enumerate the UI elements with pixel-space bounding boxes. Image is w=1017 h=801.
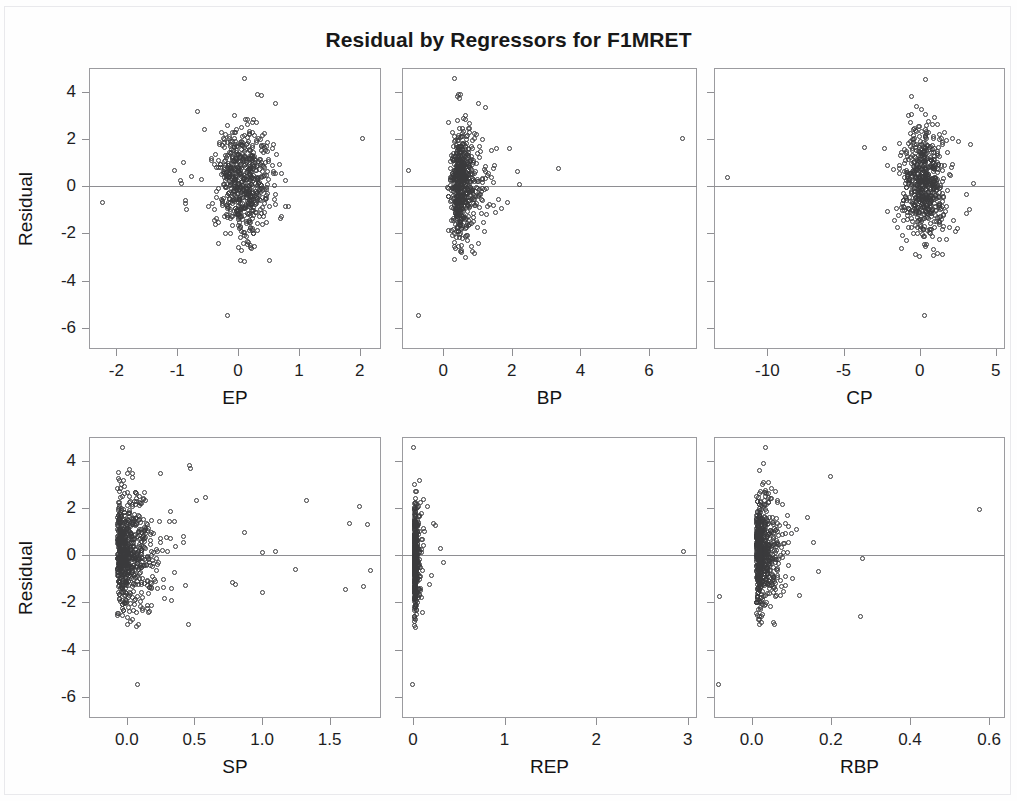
data-point xyxy=(945,188,950,193)
data-point xyxy=(897,171,902,176)
data-point xyxy=(917,124,922,129)
panel-ep: -2-1012420-2-4-6EPResidual xyxy=(89,68,381,349)
data-point xyxy=(944,237,949,242)
data-point-outlier xyxy=(491,203,496,208)
data-point-outlier xyxy=(717,594,722,599)
data-point xyxy=(921,234,926,239)
data-point xyxy=(116,508,121,513)
data-point xyxy=(760,612,765,617)
data-point xyxy=(412,482,417,487)
data-point xyxy=(247,129,252,134)
data-point xyxy=(930,176,935,181)
data-point xyxy=(463,255,468,260)
data-point xyxy=(254,168,259,173)
data-point-outlier xyxy=(120,445,125,450)
data-point xyxy=(505,200,510,205)
x-axis-tick-label: 0.0 xyxy=(740,730,764,750)
data-point xyxy=(270,146,275,151)
data-point xyxy=(265,169,270,174)
data-point xyxy=(212,162,217,167)
y-axis-tick xyxy=(82,139,89,140)
x-axis-tick-label: -10 xyxy=(755,361,780,381)
data-point-outlier xyxy=(135,682,140,687)
x-axis-tick xyxy=(996,349,997,356)
data-point xyxy=(766,562,771,567)
data-point xyxy=(184,207,189,212)
data-point xyxy=(917,134,922,139)
x-axis-tick xyxy=(330,718,331,725)
data-point xyxy=(785,550,790,555)
data-point-outlier xyxy=(425,504,430,509)
data-point xyxy=(167,519,172,524)
y-axis-tick xyxy=(395,461,402,462)
y-axis-tick xyxy=(707,602,714,603)
y-axis-title: Residual xyxy=(15,541,37,615)
y-axis-tick-label: 2 xyxy=(67,498,76,518)
data-point xyxy=(213,222,218,227)
data-point xyxy=(499,206,504,211)
data-point xyxy=(214,189,219,194)
data-point xyxy=(248,220,253,225)
data-point xyxy=(157,519,162,524)
data-point xyxy=(936,162,941,167)
data-point xyxy=(135,550,140,555)
data-point xyxy=(470,187,475,192)
data-point xyxy=(947,225,952,230)
data-point xyxy=(242,259,247,264)
y-axis-tick xyxy=(82,650,89,651)
data-point xyxy=(911,127,916,132)
data-point xyxy=(931,253,936,258)
data-point xyxy=(484,212,489,217)
data-point xyxy=(891,167,896,172)
y-axis-tick xyxy=(82,461,89,462)
data-point xyxy=(259,174,264,179)
data-point-outlier xyxy=(763,445,768,450)
data-point xyxy=(909,173,914,178)
data-point xyxy=(897,163,902,168)
data-point xyxy=(909,112,914,117)
data-point xyxy=(149,518,154,523)
data-point xyxy=(757,468,762,473)
data-point xyxy=(412,551,417,556)
data-point xyxy=(418,586,423,591)
data-point-outlier xyxy=(259,93,264,98)
panel-cp: -10-505CP xyxy=(714,68,1005,349)
y-axis-tick xyxy=(707,92,714,93)
data-point xyxy=(934,208,939,213)
x-axis-tick xyxy=(194,718,195,725)
data-point-outlier xyxy=(179,181,184,186)
data-point xyxy=(264,220,269,225)
data-point xyxy=(134,610,139,615)
data-point xyxy=(273,171,278,176)
data-point xyxy=(762,538,767,543)
data-point xyxy=(154,568,159,573)
data-point-outlier xyxy=(816,569,821,574)
y-axis-tick xyxy=(82,602,89,603)
x-axis-tick xyxy=(767,349,768,356)
data-point xyxy=(476,241,481,246)
data-point xyxy=(413,496,418,501)
data-point xyxy=(249,246,254,251)
y-axis-tick xyxy=(707,461,714,462)
data-point xyxy=(139,590,144,595)
y-axis-title: Residual xyxy=(15,172,37,246)
scatter-points xyxy=(402,68,697,349)
data-point xyxy=(908,120,913,125)
data-point xyxy=(413,489,418,494)
data-point xyxy=(929,164,934,169)
data-point-outlier xyxy=(286,204,291,209)
x-axis-tick-label: 2 xyxy=(591,730,600,750)
data-point-outlier xyxy=(956,139,961,144)
data-point xyxy=(250,145,255,150)
x-axis-tick-label: 5 xyxy=(991,361,1000,381)
data-point xyxy=(780,555,785,560)
y-axis-tick xyxy=(395,92,402,93)
x-axis-tick-label: 0.4 xyxy=(898,730,922,750)
data-point xyxy=(910,153,915,158)
data-point xyxy=(771,590,776,595)
data-point xyxy=(267,204,272,209)
data-point xyxy=(183,583,188,588)
data-point xyxy=(118,546,123,551)
data-point xyxy=(255,228,260,233)
data-point xyxy=(225,123,230,128)
